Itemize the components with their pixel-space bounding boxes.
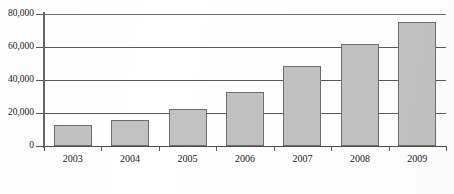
- bar-2006: [226, 92, 264, 146]
- y-axis-label-60000: 60,000: [0, 42, 34, 52]
- y-tick-0: [36, 146, 44, 147]
- y-axis-label-0: 0: [0, 141, 34, 151]
- bar-2009: [398, 22, 436, 146]
- y-tick-60000: [36, 47, 44, 48]
- bar-2003: [54, 125, 92, 146]
- x-axis-label-2005: 2005: [163, 153, 213, 164]
- bar-2008: [341, 44, 379, 146]
- x-axis-label-2007: 2007: [277, 153, 327, 164]
- x-axis-label-2006: 2006: [220, 153, 270, 164]
- x-axis-label-2004: 2004: [105, 153, 155, 164]
- x-tick-separator: [274, 146, 275, 151]
- bars-layer: [44, 0, 446, 146]
- y-axis-label-80000: 80,000: [0, 9, 34, 19]
- y-tick-40000: [36, 80, 44, 81]
- y-tick-20000: [36, 113, 44, 114]
- x-tick-separator: [216, 146, 217, 151]
- x-tick-separator: [446, 146, 447, 151]
- bar-2004: [111, 120, 149, 146]
- x-tick-separator: [331, 146, 332, 151]
- x-tick-separator: [389, 146, 390, 151]
- x-tick-separator: [44, 146, 45, 151]
- y-axis-label-40000: 40,000: [0, 75, 34, 85]
- x-tick-separator: [101, 146, 102, 151]
- bar-chart: 80,000 60,000 40,000 20,000 0 2003 2004 …: [0, 0, 454, 194]
- x-axis-label-2003: 2003: [48, 153, 98, 164]
- bar-2005: [169, 109, 207, 146]
- x-tick-separator: [159, 146, 160, 151]
- x-axis-label-2008: 2008: [335, 153, 385, 164]
- x-axis-label-2009: 2009: [392, 153, 442, 164]
- y-tick-80000: [36, 14, 44, 15]
- y-axis-label-20000: 20,000: [0, 108, 34, 118]
- bar-2007: [283, 66, 321, 146]
